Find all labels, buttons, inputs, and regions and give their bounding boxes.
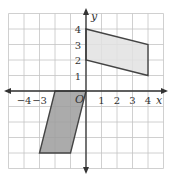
y-axis-up-arrow-icon bbox=[83, 8, 89, 15]
y-axis-label: y bbox=[90, 10, 98, 23]
y-tick-label: 4 bbox=[75, 24, 81, 35]
y-tick-label: 3 bbox=[75, 40, 81, 51]
y-tick-label: 1 bbox=[75, 71, 81, 82]
x-tick-label: −4 bbox=[17, 95, 32, 106]
x-axis-label: x bbox=[156, 94, 163, 107]
y-tick-label: 2 bbox=[75, 55, 81, 66]
origin-label: O bbox=[75, 93, 84, 106]
x-tick-label: 1 bbox=[98, 95, 104, 106]
y-tick-labels: 1234 bbox=[75, 24, 81, 82]
y-axis-down-arrow-icon bbox=[83, 167, 89, 174]
x-axis-left-arrow-icon bbox=[4, 88, 11, 94]
axes bbox=[4, 8, 168, 174]
x-tick-label: 2 bbox=[114, 95, 120, 106]
x-tick-label: −3 bbox=[32, 95, 47, 106]
x-tick-label: 4 bbox=[145, 95, 151, 106]
coordinate-plane: x y O −4−31234 1234 bbox=[0, 0, 174, 181]
x-tick-label: 3 bbox=[129, 95, 135, 106]
